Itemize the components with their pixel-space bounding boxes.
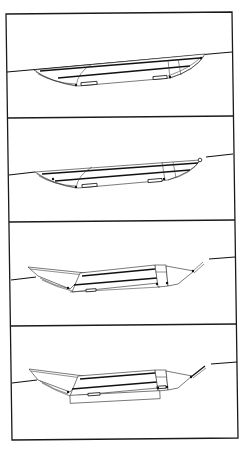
skid-pad-front — [88, 393, 100, 396]
patent-drawing — [0, 0, 247, 451]
rear-tail — [166, 266, 194, 286]
ground-line — [11, 277, 36, 280]
rear-tail — [166, 371, 192, 390]
pivot-point — [190, 376, 192, 378]
pivot-point — [163, 178, 165, 180]
panel-3 — [11, 257, 235, 292]
panel-1 — [7, 52, 232, 86]
rear-arm-tip — [198, 158, 202, 162]
pivot-point — [200, 57, 202, 59]
ground-line — [206, 154, 233, 157]
pivot-point — [67, 391, 69, 393]
pivot-point — [157, 387, 159, 389]
pivot-point — [75, 186, 77, 188]
ground-line — [12, 380, 37, 383]
rear-arm — [191, 366, 205, 377]
ground-line — [209, 257, 235, 259]
pivot-point — [52, 178, 54, 180]
ground-line — [9, 172, 35, 175]
pivot-point — [67, 287, 69, 289]
pivot-point — [166, 386, 168, 388]
panel-4 — [12, 362, 237, 403]
ground-line — [211, 362, 237, 364]
panel-divider-3 — [11, 324, 237, 326]
panel-divider-1 — [7, 116, 233, 118]
pivot-point — [75, 84, 77, 86]
panel-2 — [9, 154, 233, 188]
panel-divider-2 — [9, 220, 235, 222]
diagram-figure — [0, 0, 247, 451]
skid-pad-front — [86, 289, 96, 292]
pivot-point — [156, 283, 158, 285]
pivot-point — [166, 282, 168, 284]
pivot-point — [192, 270, 194, 272]
pivot-point — [169, 76, 171, 78]
